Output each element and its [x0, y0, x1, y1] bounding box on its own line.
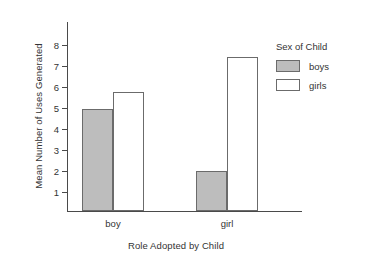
y-tick-label-2: 2 — [54, 166, 59, 177]
legend-title: Sex of Child — [276, 41, 366, 52]
x-tick-label-boy: boy — [105, 218, 120, 229]
y-tick-mark-1 — [62, 192, 67, 193]
bar-boy-role-girls[interactable] — [113, 92, 144, 210]
bar-girl-role-boys[interactable] — [196, 171, 227, 210]
legend-item-girls[interactable]: girls — [276, 79, 366, 91]
y-tick-label-1: 1 — [54, 187, 59, 198]
y-tick-mark-6 — [62, 87, 67, 88]
y-tick-mark-4 — [62, 129, 67, 130]
legend-swatch-boys-icon — [276, 60, 300, 72]
y-tick-mark-7 — [62, 66, 67, 67]
x-tick-label-girl: girl — [221, 218, 234, 229]
y-axis-line — [67, 22, 68, 212]
x-axis-title: Role Adopted by Child — [67, 240, 285, 251]
y-tick-label-8: 8 — [54, 39, 59, 50]
y-axis-title-container: Mean Number of Uses Generated — [0, 0, 36, 232]
legend-label-girls: girls — [309, 80, 326, 91]
legend: Sex of Child boys girls — [276, 41, 366, 98]
y-tick-mark-8 — [62, 45, 67, 46]
bar-girl-role-girls[interactable] — [227, 57, 258, 210]
y-tick-label-3: 3 — [54, 144, 59, 155]
bar-boy-role-boys[interactable] — [82, 109, 113, 211]
y-tick-label-4: 4 — [54, 123, 59, 134]
x-axis-line — [67, 211, 302, 212]
legend-item-boys[interactable]: boys — [276, 60, 366, 72]
y-tick-mark-2 — [62, 171, 67, 172]
y-tick-label-5: 5 — [54, 102, 59, 113]
y-tick-label-6: 6 — [54, 81, 59, 92]
plot-area: 8 7 6 5 4 3 2 1 — [67, 22, 285, 212]
y-tick-mark-3 — [62, 150, 67, 151]
y-axis-title: Mean Number of Uses Generated — [32, 18, 46, 214]
y-tick-mark-5 — [62, 108, 67, 109]
bar-chart-figure: Mean Number of Uses Generated 8 7 6 5 4 … — [0, 0, 367, 263]
y-tick-label-7: 7 — [54, 60, 59, 71]
legend-swatch-girls-icon — [276, 79, 300, 91]
legend-label-boys: boys — [309, 61, 329, 72]
